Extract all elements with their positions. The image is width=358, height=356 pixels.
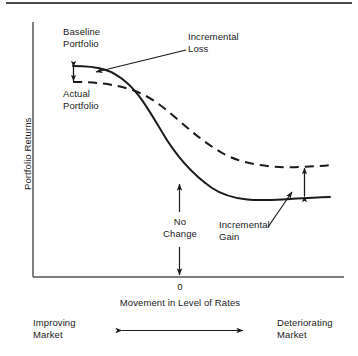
baseline-portfolio-curve xyxy=(73,66,330,200)
deteriorating-market-label: Deteriorating Market xyxy=(277,317,333,340)
incremental-loss-leader-line xyxy=(96,50,186,72)
incremental-gain-leader-line xyxy=(268,192,292,227)
y-axis-label: Portfolio Returns xyxy=(22,118,33,190)
baseline-portfolio-label: Baseline Portfolio xyxy=(63,26,100,49)
incremental-loss-label: Incremental Loss xyxy=(188,31,239,54)
no-change-label: No Change xyxy=(150,216,210,239)
x-axis-zero-tick-label: 0 xyxy=(160,281,200,293)
incremental-gain-label: Incremental Gain xyxy=(219,219,270,242)
actual-portfolio-label: Actual Portfolio xyxy=(63,88,99,111)
actual-portfolio-curve xyxy=(73,82,330,167)
x-axis-label: Movement in Level of Rates xyxy=(100,297,260,309)
improving-market-label: Improving Market xyxy=(33,317,76,340)
portfolio-returns-chart: Portfolio Returns Baseline Portfolio Act… xyxy=(0,0,358,356)
